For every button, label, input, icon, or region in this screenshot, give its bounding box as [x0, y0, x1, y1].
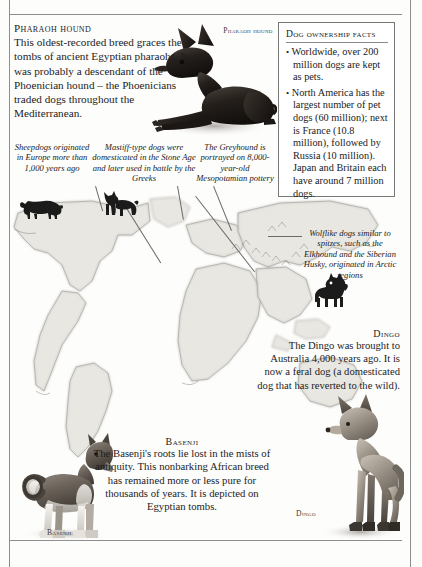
- dingo-photo-label: Dingo: [296, 509, 316, 518]
- mastiff-silhouette: [100, 188, 140, 220]
- dingo-heading: Dingo: [250, 328, 400, 339]
- caption-sheepdog: Sheepdogs originated in Europe more than…: [14, 142, 90, 173]
- caption-mastiff: Mastiff-type dogs were domesticated in t…: [92, 142, 196, 184]
- dingo-article: Dingo The Dingo was brought to Australia…: [250, 328, 400, 392]
- facts-box-title: Dog ownership facts: [286, 28, 388, 41]
- basenji-heading: Basenji: [88, 436, 276, 447]
- frame-rule-right: [410, 0, 411, 567]
- basenji-body: The Basenji's roots lie lost in the mist…: [88, 447, 276, 513]
- dingo-body: The Dingo was brought to Australia 4,000…: [250, 339, 400, 392]
- dingo-photograph: [316, 392, 404, 540]
- frame-rule-left: [9, 0, 10, 567]
- pharaoh-hound-photo-label: Pharaoh hound: [222, 26, 274, 35]
- encyclopedia-page: Pharaoh hound Pharaoh hound This oldest-…: [0, 0, 422, 567]
- leader-line-wolflike: [268, 236, 302, 237]
- fact-item-text: Worldwide, over 200 million dogs are kep…: [292, 46, 381, 82]
- bullet-icon: •: [286, 47, 289, 57]
- bullet-icon: •: [286, 88, 289, 98]
- sheepdog-silhouette: [18, 190, 64, 220]
- spitz-silhouette: [312, 272, 352, 308]
- fact-item: • North America has the largest number o…: [286, 87, 388, 200]
- caption-greyhound: The Greyhound is portrayed on 8,000-year…: [196, 142, 274, 184]
- frame-rule-top: [9, 14, 402, 15]
- fact-item-text: North America has the largest number of …: [292, 87, 388, 199]
- dog-ownership-facts-box: Dog ownership facts • Worldwide, over 20…: [278, 22, 395, 197]
- basenji-article: Basenji The Basenji's roots lie lost in …: [88, 436, 276, 513]
- pharaoh-hound-article: Pharaoh hound This oldest-recorded breed…: [14, 22, 189, 121]
- facts-box-rule: [286, 42, 388, 43]
- pharaoh-hound-heading: Pharaoh hound: [14, 22, 189, 34]
- leader-line-map-b: [195, 196, 255, 272]
- pharaoh-hound-body: This oldest-recorded breed graces the to…: [14, 35, 189, 121]
- basenji-photo-label: Basenji: [47, 528, 72, 537]
- fact-item: • Worldwide, over 200 million dogs are k…: [286, 46, 388, 84]
- leader-line-mastiff: [177, 186, 184, 220]
